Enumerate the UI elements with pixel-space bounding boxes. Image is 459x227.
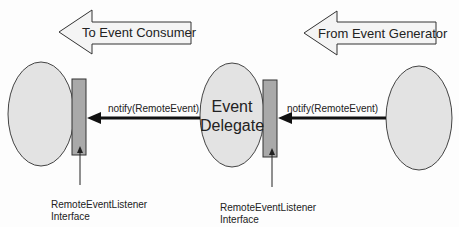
consumer-interface-bar	[72, 79, 86, 155]
interface-label-left: RemoteEventListener Interface	[51, 199, 147, 223]
interface-label-left-line1: RemoteEventListener	[51, 199, 147, 211]
to-consumer-label: To Event Consumer	[82, 25, 196, 40]
delegate-interface-bar	[263, 80, 277, 157]
interface-label-right: RemoteEventListener Interface	[220, 202, 316, 226]
interface-label-right-line1: RemoteEventListener	[220, 202, 316, 214]
from-generator-label: From Event Generator	[318, 26, 447, 41]
interface-label-left-line2: Interface	[51, 211, 147, 223]
interface-label-right-line2: Interface	[220, 214, 316, 226]
consumer-ellipse	[8, 62, 74, 166]
generator-ellipse	[386, 66, 452, 170]
notify-label-left: notify(RemoteEvent)	[108, 103, 199, 114]
delegate-label: Event Delegate	[200, 97, 264, 135]
delegate-label-line2: Delegate	[200, 116, 264, 135]
notify-arrow-left-head	[87, 112, 101, 124]
event-delegate-diagram: To Event Consumer From Event Generator n…	[0, 0, 459, 227]
delegate-label-line1: Event	[200, 97, 264, 116]
notify-label-right: notify(RemoteEvent)	[287, 103, 378, 114]
